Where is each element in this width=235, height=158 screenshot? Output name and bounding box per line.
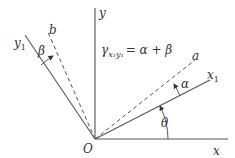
line-b-label: b	[49, 23, 57, 37]
x-axis-label: x	[213, 144, 220, 158]
y1-axis	[25, 35, 95, 139]
y-axis-label: y	[98, 6, 106, 20]
alpha-arc	[174, 84, 180, 96]
line-a-label: a	[192, 49, 199, 63]
alpha-label: α	[181, 77, 189, 91]
diagram-canvas: y x O x1 y1 a b θ α β γx₁y₁= α + β	[0, 0, 235, 158]
line-a	[95, 60, 195, 139]
beta-label: β	[37, 44, 45, 58]
x1-axis	[95, 80, 210, 139]
y1-axis-label: y1	[13, 36, 26, 52]
x1-axis-label: x1	[207, 68, 219, 84]
line-b	[47, 30, 95, 139]
shear-formula: γx₁y₁= α + β	[101, 43, 172, 59]
theta-label: θ	[161, 116, 169, 130]
origin-label: O	[83, 142, 93, 156]
